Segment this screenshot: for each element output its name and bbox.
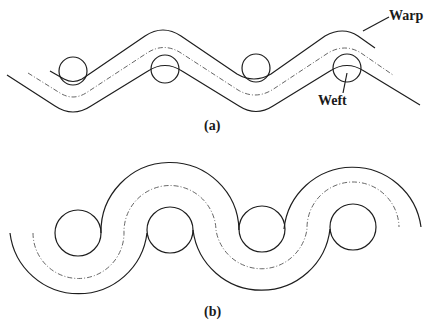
weft-a-4 [333, 54, 361, 82]
weft-b-2 [147, 207, 193, 253]
weft-b-3 [239, 206, 285, 252]
warp-a-lower-line [7, 66, 420, 113]
warp-label: Warp [389, 8, 423, 23]
diagram-a: Warp Weft (a) [7, 8, 423, 134]
weave-diagrams: Warp Weft (a) (b) [0, 0, 429, 330]
weft-leader-line [343, 73, 347, 93]
caption-a: (a) [204, 118, 221, 134]
warp-a-centerline [28, 48, 393, 98]
weft-a-2 [151, 55, 179, 83]
weft-label: Weft [318, 93, 347, 108]
diagram-b: (b) [10, 162, 421, 320]
warp-b-top-arc-1 [101, 162, 239, 233]
warp-b-centerline [33, 182, 399, 279]
caption-b: (b) [204, 304, 221, 320]
warp-leader-line [363, 17, 389, 31]
weft-a-3 [242, 54, 270, 82]
warp-b-outer-line [10, 233, 147, 294]
weft-b-4 [330, 204, 376, 250]
warp-b-top-arc-2 [284, 167, 421, 229]
weft-a-1 [59, 57, 87, 85]
warp-b-bottom-arc-2 [193, 229, 330, 290]
weft-b-1 [55, 210, 101, 256]
